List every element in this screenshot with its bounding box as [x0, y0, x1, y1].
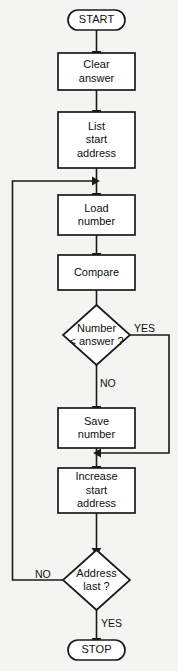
edge-label-number-yes: YES — [134, 322, 155, 334]
flowchart-graphics — [0, 0, 178, 671]
node-compare — [58, 255, 135, 290]
node-list-start-address — [58, 112, 135, 168]
edge-label-address-yes: YES — [101, 617, 122, 629]
node-save-number — [58, 408, 135, 448]
node-increase-start-address — [58, 468, 135, 513]
node-load-number — [58, 195, 135, 235]
edge-label-number-no: NO — [100, 377, 116, 389]
edge-label-address-no: NO — [35, 568, 51, 580]
node-start-terminator — [68, 10, 125, 30]
node-number-lt-answer-decision — [63, 305, 130, 365]
node-stop-terminator — [68, 640, 125, 660]
node-clear-answer — [58, 53, 135, 90]
flowchart-canvas: START Clear answer List start address Lo… — [0, 0, 178, 671]
node-address-last-decision — [63, 550, 130, 610]
edge-address-decision-no-loop-back — [13, 181, 94, 580]
